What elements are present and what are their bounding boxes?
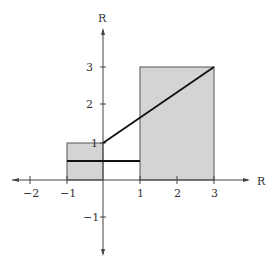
y-axis-bottom-arrow-icon	[101, 249, 105, 256]
x-axis-left-arrow-icon	[12, 178, 19, 182]
x-axis-label: R	[257, 175, 266, 188]
y-tick-label: 2	[86, 98, 93, 111]
x-tick-label: 2	[174, 187, 181, 200]
x-tick-label: −2	[23, 187, 39, 200]
right-rectangle	[140, 67, 214, 180]
y-tick-label: −1	[83, 211, 99, 224]
y-axis-top-arrow-icon	[101, 28, 105, 35]
x-tick-label: 1	[137, 187, 144, 200]
x-tick-label: 3	[211, 187, 218, 200]
y-tick-label: 3	[86, 61, 93, 74]
x-axis-right-arrow-icon	[243, 178, 250, 182]
y-tick-label: 1	[91, 137, 98, 150]
x-tick-label: −1	[60, 187, 76, 200]
y-axis-label: R	[98, 12, 107, 25]
diagram: R R −2 −1 1 2 3 3 2 1 −1	[0, 0, 273, 266]
